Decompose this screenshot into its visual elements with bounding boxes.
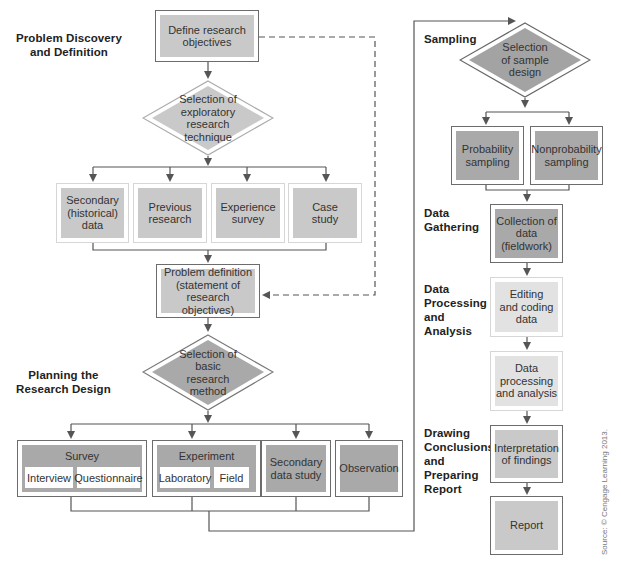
node-experiment: Experiment Laboratory Field: [152, 440, 261, 497]
decision-sample-design: Selection of sample design: [459, 22, 591, 98]
node-label: Survey: [22, 445, 142, 462]
node-label: Observation: [340, 445, 398, 492]
node-label: Interpretation of findings: [495, 430, 558, 478]
node-probability-sampling: Probability sampling: [451, 126, 524, 185]
node-previous-research: Previous research: [133, 183, 207, 243]
stage-line: Drawing: [424, 426, 494, 440]
node-experience-survey: Experience survey: [211, 183, 285, 243]
node-nonprobability-sampling: Nonprobability sampling: [530, 126, 603, 185]
stage-label-planning: Planning the Research Design: [16, 368, 111, 396]
node-label: Selection of sample design: [497, 41, 553, 79]
node-observation: Observation: [335, 440, 403, 497]
node-secondary-data-study: Secondary data study: [261, 440, 331, 497]
node-case-study: Case study: [288, 183, 362, 243]
stage-line: Report: [424, 482, 494, 496]
node-report: Report: [490, 496, 563, 555]
node-editing: Editing and coding data: [490, 277, 563, 337]
stage-line: Gathering: [424, 220, 479, 234]
node-label: Editing and coding data: [495, 282, 558, 332]
node-label: Define research objectives: [160, 15, 254, 57]
stage-label-problem-discovery: Problem Discovery and Definition: [16, 31, 122, 59]
stage-line: Data: [424, 206, 479, 220]
node-label: Collection of data (fieldwork): [495, 209, 558, 258]
node-collection: Collection of data (fieldwork): [490, 204, 563, 263]
stage-line: Preparing: [424, 468, 494, 482]
option-field: Field: [214, 467, 249, 488]
node-label: Experience survey: [216, 188, 280, 238]
node-label: Secondary (historical) data: [61, 188, 124, 238]
stage-label-conclusions: Drawing Conclusions and Preparing Report: [424, 426, 494, 496]
decision-basic-method: Selection of basic research method: [142, 334, 274, 411]
node-label: Probability sampling: [456, 131, 519, 180]
stage-line: Analysis: [424, 324, 487, 338]
stage-line: Planning the: [16, 368, 111, 382]
node-label: Report: [495, 501, 558, 550]
node-survey: Survey Interview Questionnaire: [17, 440, 147, 497]
node-problem-definition: Problem definition (statement of researc…: [156, 264, 260, 318]
node-label: Nonprobability sampling: [535, 131, 598, 180]
node-define-objectives: Define research objectives: [155, 10, 259, 62]
stage-line: Data: [424, 282, 487, 296]
stage-line: Problem Discovery: [16, 31, 122, 45]
stage-line: and Definition: [16, 45, 122, 59]
stage-line: and: [424, 310, 487, 324]
source-credit: Source: © Cengage Learning 2013.: [600, 429, 609, 555]
stage-label-data-gathering: Data Gathering: [424, 206, 479, 234]
stage-line: Conclusions: [424, 440, 494, 454]
node-label: Selection of basic research method: [175, 348, 241, 398]
node-label: Selection of exploratory research techni…: [168, 93, 248, 143]
option-laboratory: Laboratory: [160, 467, 210, 488]
node-label: Problem definition (statement of researc…: [161, 269, 255, 313]
stage-line: Processing: [424, 296, 487, 310]
node-label: Secondary data study: [266, 445, 326, 492]
option-interview: Interview: [25, 467, 73, 488]
node-processing: Data processing and analysis: [490, 351, 563, 411]
node-label: Previous research: [138, 188, 202, 238]
decision-exploratory-technique: Selection of exploratory research techni…: [142, 80, 274, 156]
node-label: Experiment: [157, 445, 256, 462]
stage-label-data-processing: Data Processing and Analysis: [424, 282, 487, 338]
option-questionnaire: Questionnaire: [77, 467, 140, 488]
node-secondary-historical: Secondary (historical) data: [56, 183, 129, 243]
node-interpretation: Interpretation of findings: [490, 425, 563, 483]
node-label: Case study: [293, 188, 357, 238]
stage-line: and: [424, 454, 494, 468]
stage-line: Research Design: [16, 382, 111, 396]
node-label: Data processing and analysis: [495, 356, 558, 406]
